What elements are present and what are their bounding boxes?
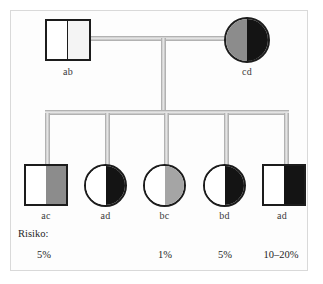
child-1-allele-left [26,166,46,204]
risk-row-title: Risiko: [18,228,48,239]
label-child-4-bd: bd [203,210,246,221]
label-child-2-ad: ad [84,210,127,221]
risk-value-child-3: 1% [141,249,189,260]
drop-line-2 [105,113,110,165]
individual-father-ab[interactable] [45,19,91,61]
drop-line-5 [284,113,289,165]
child-4-allele-right [225,166,245,205]
drop-line-3 [164,113,169,165]
risk-value-child-1: 5% [20,249,68,260]
label-child-1-ac: ac [24,210,68,221]
pedigree-figure: ab cd ac ad bc bd ad Risiko: 5% 1% 5% 10… [0,0,323,284]
drop-line-4 [224,113,229,165]
mating-line [89,36,227,41]
individual-child-2-ad[interactable] [84,164,127,207]
child-1-allele-right [46,166,66,204]
child-2-allele-right [106,166,126,205]
label-mother-cd: cd [224,66,270,77]
child-5-allele-left [264,166,284,204]
risk-value-child-4: 5% [201,249,249,260]
father-allele-left [47,21,68,59]
individual-mother-cd[interactable] [224,17,270,63]
individual-child-5-ad[interactable] [262,164,306,206]
label-child-3-bc: bc [143,210,186,221]
child-3-allele-right [165,166,185,205]
mother-allele-left [226,19,247,61]
drop-line-1 [45,113,50,165]
individual-child-1-ac[interactable] [24,164,68,206]
descent-line [161,38,166,112]
individual-child-4-bd[interactable] [203,164,246,207]
risk-value-child-5: 10–20% [252,249,310,260]
child-2-allele-left [86,166,106,205]
father-allele-right [68,21,89,59]
child-4-allele-left [205,166,225,205]
child-3-allele-left [145,166,165,205]
label-child-5-ad: ad [260,210,304,221]
label-father-ab: ab [45,66,91,77]
child-5-allele-right [284,166,304,204]
individual-child-3-bc[interactable] [143,164,186,207]
